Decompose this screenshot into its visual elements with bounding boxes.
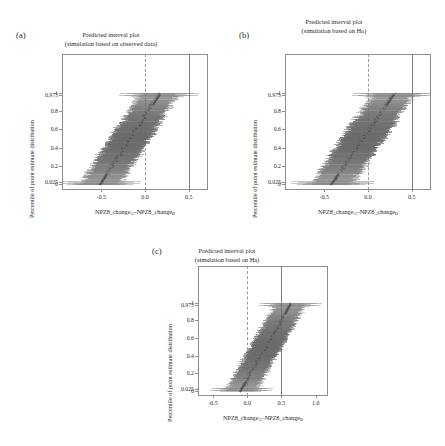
reference-line-threshold xyxy=(189,54,190,190)
xlab-a-mid: –NPZ8_change xyxy=(134,208,173,215)
x-tick-mark xyxy=(247,396,248,398)
y-tick-label: 0.2 xyxy=(257,163,281,169)
xlab-b-subB: B xyxy=(395,211,398,216)
panel-a-x-axis-label: NPZ8_changeA–NPZ8_changeB xyxy=(62,208,208,215)
y-tick-mark xyxy=(195,373,197,374)
x-tick-mark xyxy=(213,396,214,398)
y-tick-mark xyxy=(195,338,197,339)
xlab-c-pre: NPZ8_change xyxy=(223,414,258,421)
x-tick-mark xyxy=(145,190,146,192)
y-tick-mark xyxy=(59,166,61,167)
y-tick-mark xyxy=(282,182,284,183)
x-tick-label: -0.5 xyxy=(97,194,106,200)
xlab-b-mid: –NPZ8_change xyxy=(357,208,396,215)
y-tick-mark xyxy=(195,320,197,321)
x-tick-label: -0.5 xyxy=(320,194,329,200)
y-tick-mark xyxy=(282,184,284,185)
x-tick-mark xyxy=(368,190,369,192)
x-tick-mark xyxy=(101,190,102,192)
y-tick-label: 0.2 xyxy=(170,370,194,376)
panel-b-title-line2: (simulation based on Ho) xyxy=(223,26,445,35)
x-tick-label: 1.0 xyxy=(312,400,319,406)
panel-c-title-line2: (simulation based on Ha) xyxy=(112,255,342,264)
x-tick-mark xyxy=(189,190,190,192)
y-tick-mark xyxy=(282,166,284,167)
y-tick-mark xyxy=(195,305,197,306)
confidence-interval-bar-outlier xyxy=(353,93,431,94)
panel-c-title-line1: Predicted interval plot xyxy=(112,246,342,255)
y-tick-label: 0.8 xyxy=(34,108,58,114)
y-tick-mark xyxy=(282,148,284,149)
y-tick-mark xyxy=(195,389,197,390)
xlab-b-subA: A xyxy=(353,211,356,216)
y-tick-label: 1 xyxy=(170,300,194,306)
xlab-c-subB: B xyxy=(300,417,303,422)
panel-b: (b) Predicted interval plot (simulation … xyxy=(223,10,445,242)
panel-b-title: Predicted interval plot (simulation base… xyxy=(223,17,445,35)
panel-a-title-line1: Predicted interval plot xyxy=(0,30,222,39)
x-tick-label: 0.0 xyxy=(364,194,371,200)
panel-b-title-line1: Predicted interval plot xyxy=(223,17,445,26)
panel-a-title-line2: (simulation based on observed data) xyxy=(0,39,222,48)
y-tick-mark xyxy=(282,93,284,94)
xlab-a-subA: A xyxy=(130,211,133,216)
panel-a-plot-area xyxy=(62,54,208,190)
y-tick-label: 0.6 xyxy=(257,126,281,132)
y-tick-label: 0.8 xyxy=(257,108,281,114)
panel-c-plot-area xyxy=(198,266,328,396)
xlab-b-pre: NPZ8_change xyxy=(318,208,353,215)
y-tick-label: 0.025 xyxy=(257,179,281,185)
x-tick-mark xyxy=(316,396,317,398)
panel-a: (a) Predicted interval plot (simulation … xyxy=(0,22,222,242)
panel-a-title: Predicted interval plot (simulation base… xyxy=(0,30,222,48)
y-tick-mark xyxy=(59,95,61,96)
x-tick-mark xyxy=(324,190,325,192)
xlab-c-subA: A xyxy=(258,417,261,422)
reference-line-threshold xyxy=(412,54,413,190)
y-tick-label: 0.6 xyxy=(34,126,58,132)
y-tick-mark xyxy=(195,303,197,304)
y-tick-mark xyxy=(59,111,61,112)
y-tick-mark xyxy=(59,93,61,94)
y-tick-mark xyxy=(59,182,61,183)
y-tick-mark xyxy=(282,111,284,112)
y-tick-mark xyxy=(282,129,284,130)
y-tick-mark xyxy=(195,356,197,357)
y-tick-mark xyxy=(59,129,61,130)
x-tick-label: -0.5 xyxy=(208,400,217,406)
y-tick-label: 0.2 xyxy=(34,163,58,169)
x-tick-label: 0.5 xyxy=(408,194,415,200)
y-tick-label: 0.4 xyxy=(257,145,281,151)
x-tick-label: 0.5 xyxy=(185,194,192,200)
x-tick-label: 0.0 xyxy=(244,400,251,406)
x-tick-label: 0.0 xyxy=(141,194,148,200)
xlab-a-pre: NPZ8_change xyxy=(95,208,130,215)
x-tick-label: 0.5 xyxy=(278,400,285,406)
y-tick-mark xyxy=(282,95,284,96)
y-tick-label: 0.025 xyxy=(170,386,194,392)
panel-c-x-axis-label: NPZ8_changeA–NPZ8_changeB xyxy=(198,414,328,421)
y-tick-mark xyxy=(59,148,61,149)
xlab-a-subB: B xyxy=(172,211,175,216)
y-tick-mark xyxy=(195,391,197,392)
panel-b-x-axis-label: NPZ8_changeA–NPZ8_changeB xyxy=(285,208,431,215)
y-tick-label: 0.025 xyxy=(34,179,58,185)
panel-b-plot-area xyxy=(285,54,431,190)
x-tick-mark xyxy=(281,396,282,398)
y-tick-label: 0.6 xyxy=(170,335,194,341)
panel-c-title: Predicted interval plot (simulation base… xyxy=(112,246,342,264)
y-tick-label: 0.4 xyxy=(34,145,58,151)
y-tick-mark xyxy=(59,184,61,185)
y-tick-label: 0.4 xyxy=(170,353,194,359)
y-tick-label: 1 xyxy=(257,90,281,96)
x-tick-mark xyxy=(412,190,413,192)
panel-c: (c) Predicted interval plot (simulation … xyxy=(112,240,342,446)
xlab-c-mid: –NPZ8_change xyxy=(262,414,301,421)
y-tick-label: 0.8 xyxy=(170,317,194,323)
y-tick-label: 1 xyxy=(34,90,58,96)
